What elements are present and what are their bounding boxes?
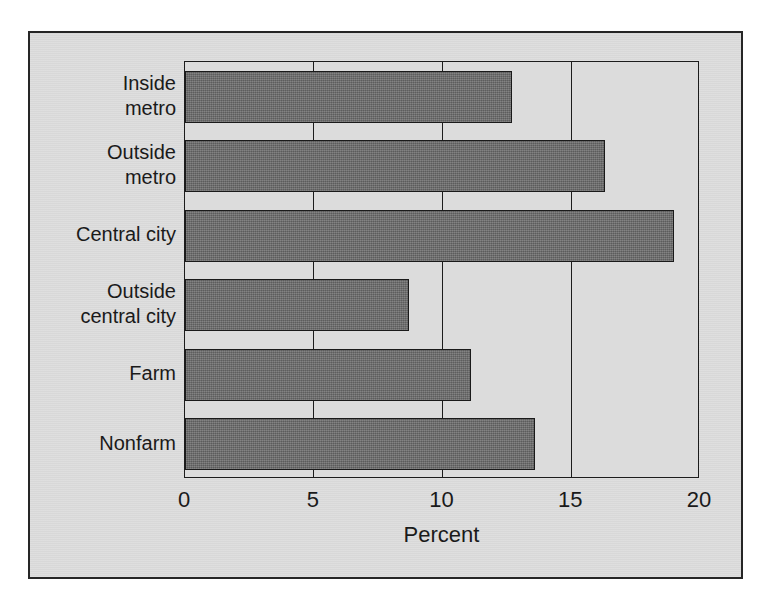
- x-tick-label: 20: [687, 487, 711, 513]
- y-axis-label: Nonfarm: [99, 431, 176, 456]
- bar: [185, 71, 512, 123]
- bar: [185, 279, 409, 331]
- gridline-15: [571, 62, 572, 477]
- gridline-10: [442, 62, 443, 477]
- x-tick-label: 10: [429, 487, 453, 513]
- bar: [185, 418, 535, 470]
- y-axis-label: Central city: [76, 222, 176, 247]
- bar: [185, 210, 674, 262]
- y-axis-label: Outside metro: [107, 140, 176, 190]
- x-axis-title: Percent: [184, 522, 699, 548]
- plot-area: [184, 61, 699, 478]
- y-axis-label: Inside metro: [123, 71, 176, 121]
- figure: Inside metroOutside metroCentral cityOut…: [0, 0, 778, 605]
- x-tick-label: 15: [558, 487, 582, 513]
- bar: [185, 140, 605, 192]
- bar: [185, 349, 471, 401]
- y-axis-label: Farm: [129, 361, 176, 386]
- gridline-5: [313, 62, 314, 477]
- y-axis-label: Outside central city: [80, 279, 176, 329]
- y-axis-category-labels: Inside metroOutside metroCentral cityOut…: [0, 61, 176, 478]
- x-tick-label: 5: [307, 487, 319, 513]
- x-tick-label: 0: [178, 487, 190, 513]
